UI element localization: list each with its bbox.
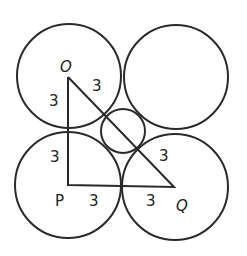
- circle-top-right: [124, 25, 228, 129]
- vertex-label-p: P: [55, 192, 64, 210]
- length-label-oq-upper: 3: [92, 77, 102, 95]
- triangle-opq: [68, 77, 174, 187]
- length-label-op-lower: 3: [50, 148, 60, 166]
- length-label-pq-left: 3: [89, 192, 99, 210]
- length-label-oq-lower: 3: [159, 147, 169, 165]
- diagram-svg: O P Q 3 3 3 3 3 3: [0, 0, 247, 256]
- vertex-label-q: Q: [176, 197, 188, 215]
- circle-center-small: [101, 109, 145, 153]
- vertex-label-o: O: [60, 58, 72, 76]
- length-label-op-upper: 3: [49, 92, 59, 110]
- length-label-pq-right: 3: [146, 192, 156, 210]
- geometry-diagram: O P Q 3 3 3 3 3 3: [0, 0, 247, 256]
